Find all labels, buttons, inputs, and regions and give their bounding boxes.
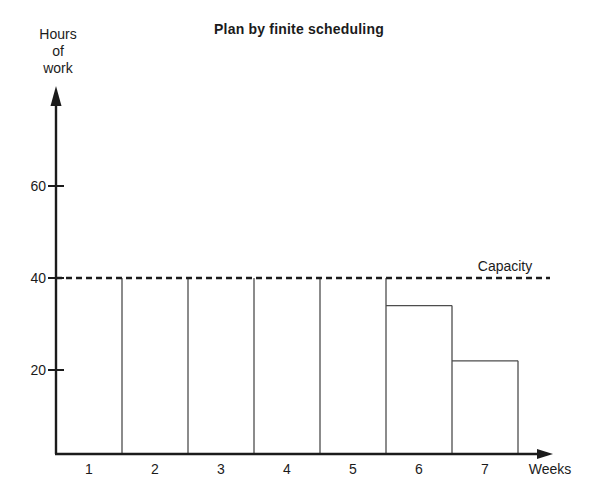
x-axis-arrowhead	[537, 449, 553, 459]
plot-svg	[0, 0, 598, 504]
finite-scheduling-chart: Plan by finite scheduling Hours of work …	[0, 0, 598, 504]
y-axis-arrowhead	[51, 86, 62, 106]
